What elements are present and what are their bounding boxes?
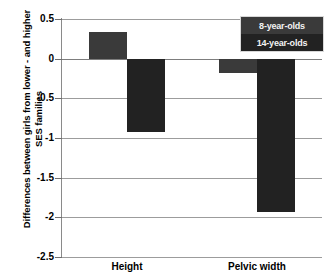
x-axis-label-height: Height [67,261,187,272]
y-axis-tick-label: -0.5 [14,92,54,103]
x-axis-label-pelvic-width: Pelvic width [197,261,317,272]
chart-figure: Differences between girls from lower - a… [0,0,330,280]
y-axis-tick-label: -2 [14,211,54,222]
y-axis-tick [55,257,62,258]
y-axis-tick [55,19,62,20]
y-axis-tick-label: -1.5 [14,171,54,182]
y-axis-tick [55,98,62,99]
bar-height-14-year-olds [127,59,165,133]
y-axis-tick [55,178,62,179]
legend-item-8-year-olds: 8-year-olds [241,17,323,34]
legend-label-8-year-olds: 8-year-olds [259,21,305,31]
gridline [62,217,322,218]
y-axis-tick [55,138,62,139]
bar-pelvic-width-8-year-olds [219,59,257,73]
legend-item-14-year-olds: 14-year-olds [241,34,323,51]
y-axis-tick [55,217,62,218]
bar-pelvic-width-14-year-olds [257,59,295,212]
legend: 8-year-olds 14-year-olds [240,16,324,52]
y-axis-tick-label: 0 [14,52,54,63]
y-axis-tick-label: 0.5 [14,13,54,24]
y-axis-tick-labels: 0.50-0.5-1-1.5-2-2.5 [8,19,54,257]
y-axis-tick-label: -1 [14,132,54,143]
legend-label-14-year-olds: 14-year-olds [257,38,308,48]
plot-area [62,19,322,257]
y-axis-tick-label: -2.5 [14,251,54,262]
bar-height-8-year-olds [89,32,127,58]
gridline [62,257,322,258]
y-axis-tick [55,59,62,60]
